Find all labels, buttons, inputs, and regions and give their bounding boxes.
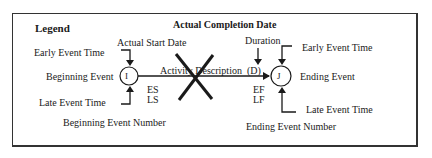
ending-early-event-arrow-icon <box>282 46 292 60</box>
actual-start-date-label: Actual Start Date <box>117 37 186 48</box>
actual-start-date-arrow-icon <box>121 50 130 61</box>
late-start-label: LS <box>147 94 159 105</box>
ending-late-event-time-label: Late Event Time <box>306 104 373 115</box>
activity-on-arrow-legend-diagram: Legend Actual Completion Date Actual Sta… <box>0 0 432 158</box>
ending-event-circle <box>271 66 291 86</box>
late-finish-label: LF <box>253 94 265 105</box>
duration-label: Duration <box>245 35 281 46</box>
beginning-late-event-arrow-icon <box>121 92 130 104</box>
beginning-event-label: Beginning Event <box>46 71 114 82</box>
ending-late-event-arrow-icon <box>282 93 296 112</box>
beginning-early-event-time-label: Early Event Time <box>34 47 105 58</box>
beginning-event-circle <box>120 67 138 85</box>
ending-event-number-label: Ending Event Number <box>246 121 336 132</box>
activity-description-label: Activity Description <box>160 65 242 76</box>
beginning-event-symbol: I <box>125 71 128 82</box>
duration-symbol: (D) <box>247 65 261 76</box>
completion-x-icon <box>176 54 213 100</box>
ending-early-event-time-label: Early Event Time <box>302 42 373 53</box>
actual-completion-date-label: Actual Completion Date <box>173 19 276 30</box>
ending-event-label: Ending Event <box>300 71 355 82</box>
legend-title: Legend <box>35 23 70 34</box>
ending-event-symbol: J <box>277 71 281 82</box>
beginning-event-number-label: Beginning Event Number <box>63 117 166 128</box>
beginning-late-event-time-label: Late Event Time <box>39 97 106 108</box>
